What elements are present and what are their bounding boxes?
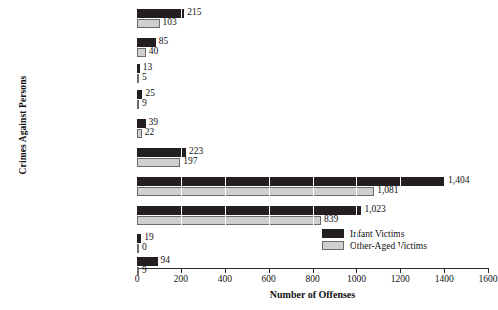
legend-swatch-infant <box>322 229 344 238</box>
bar-value-label: 39 <box>149 118 159 127</box>
x-axis-tick-label: 800 <box>305 274 319 284</box>
gridline <box>313 6 314 268</box>
bar-other <box>137 19 160 28</box>
gridline <box>400 6 401 268</box>
legend-item: Other-Aged Victims <box>322 240 427 251</box>
legend-label: Other-Aged Victims <box>350 241 427 251</box>
bar-value-label: 40 <box>149 47 159 56</box>
bar-other <box>137 216 321 225</box>
x-axis-tick <box>181 268 182 273</box>
bar-value-label: 1,081 <box>377 186 398 195</box>
bar-infant <box>137 9 184 18</box>
x-axis-tick-label: 1600 <box>479 274 498 284</box>
bar-value-label: 1,404 <box>448 176 469 185</box>
bar-value-label: 25 <box>145 89 155 98</box>
bar-infant <box>137 148 186 157</box>
bar-infant <box>137 206 361 215</box>
x-axis-tick <box>313 268 314 273</box>
x-axis-tick <box>444 268 445 273</box>
chart-legend: Infant VictimsOther-Aged Victims <box>322 228 427 252</box>
bar-value-label: 94 <box>161 256 171 265</box>
bar-infant <box>137 90 142 99</box>
bar-other <box>137 100 139 109</box>
bar-value-label: 1,023 <box>364 205 385 214</box>
plot-area: 215103Kidnapping/ Abduction8540Forcible … <box>137 6 488 268</box>
x-axis-title: Number of Offenses <box>137 289 488 300</box>
bar-value-label: 19 <box>144 233 154 242</box>
x-axis-tick-label: 400 <box>218 274 232 284</box>
x-axis-tick-label: 1200 <box>391 274 410 284</box>
bar-value-label: 839 <box>324 215 338 224</box>
bar-infant <box>137 177 445 186</box>
bar-value-label: 13 <box>143 63 153 72</box>
bar-infant <box>137 119 146 128</box>
bar-value-label: 85 <box>159 37 169 46</box>
gridline <box>181 6 182 268</box>
bar-other <box>137 158 180 167</box>
bar-value-label: 9 <box>142 99 147 108</box>
bar-other <box>137 74 139 83</box>
legend-swatch-other <box>322 241 344 250</box>
bar-other <box>137 187 374 196</box>
bar-value-label: 0 <box>142 243 147 252</box>
x-axis-tick-label: 1400 <box>435 274 454 284</box>
x-axis-tick <box>356 268 357 273</box>
x-axis-tick <box>225 268 226 273</box>
x-axis-tick-label: 1000 <box>347 274 366 284</box>
x-axis-tick <box>488 268 489 273</box>
y-axis-title: Crimes Against Persons <box>18 40 28 210</box>
bar-value-label: 103 <box>163 18 177 27</box>
legend-label: Infant Victims <box>350 229 404 239</box>
bar-other <box>137 48 146 57</box>
x-axis-tick <box>269 268 270 273</box>
bar-infant <box>137 64 140 73</box>
x-axis-tick-label: 600 <box>262 274 276 284</box>
gridline <box>269 6 270 268</box>
bar-other <box>137 129 142 138</box>
bar-value-label: 197 <box>183 157 197 166</box>
x-axis-tick-label: 200 <box>174 274 188 284</box>
bar-infant <box>137 257 158 266</box>
bar-other <box>137 267 139 276</box>
bar-infant <box>137 234 141 243</box>
bar-value-label: 223 <box>189 147 203 156</box>
gridline <box>225 6 226 268</box>
gridline <box>444 6 445 268</box>
bar-value-label: 22 <box>145 128 155 137</box>
bar-other <box>137 244 139 253</box>
x-axis-tick <box>400 268 401 273</box>
gridline <box>356 6 357 268</box>
bar-value-label: 215 <box>187 8 201 17</box>
bar-infant <box>137 38 156 47</box>
legend-item: Infant Victims <box>322 228 427 239</box>
gridline <box>488 6 489 268</box>
bar-value-label: 5 <box>142 73 147 82</box>
